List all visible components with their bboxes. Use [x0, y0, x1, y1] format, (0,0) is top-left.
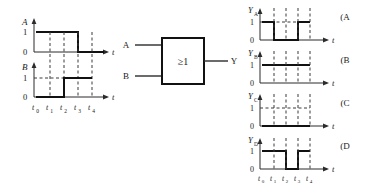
- logic-gate-diagram: A B Y ≥1: [123, 38, 238, 84]
- option-C-level-1-label: 1: [250, 104, 254, 113]
- channel-A-trace: [36, 32, 104, 52]
- option-tick-t1: t 1: [270, 174, 277, 184]
- option-tick-t2: t 2: [282, 174, 289, 184]
- input-tick-t4: t 4: [88, 103, 95, 114]
- channel-A-level-1-label: 1: [23, 27, 27, 37]
- gate-input-b-label: B: [123, 71, 129, 81]
- option-tick-t4: t 4: [306, 174, 313, 184]
- option-A-choice-label: (A: [340, 12, 350, 22]
- channel-B-trace: [36, 78, 92, 97]
- channel-B-name-label: B: [22, 62, 28, 72]
- option-B-x-axis-arrow: [323, 81, 329, 86]
- answer-options-panel: Y A 1 0 t (A Y B 1 0 t: [248, 5, 350, 184]
- input-tick-t0: t 0: [32, 103, 39, 114]
- input-tick-t4-base: t: [88, 103, 91, 112]
- waveform-channel-B: B 1 0 t: [22, 62, 115, 102]
- option-D-level-1-label: 1: [250, 147, 254, 156]
- input-time-tick-labels: t 0 t 1 t 2 t 3 t 4: [32, 103, 95, 114]
- channel-B-level-0-label: 0: [23, 92, 27, 102]
- or-gate-symbol: ≥1: [178, 56, 189, 67]
- option-tick-t0-sub: 0: [262, 179, 265, 184]
- option-B-level-0-label: 0: [250, 79, 254, 88]
- input-tick-t0-base: t: [32, 103, 35, 112]
- channel-B-time-axis-label: t: [112, 92, 115, 102]
- option-tick-t3-base: t: [294, 174, 297, 183]
- input-tick-t1-sub: 1: [50, 108, 53, 114]
- channel-B-y-axis-arrow: [32, 62, 37, 68]
- option-tick-t4-base: t: [306, 174, 309, 183]
- option-time-tick-labels: t 0 t 1 t 2 t 3 t 4: [258, 174, 313, 184]
- option-D-time-axis-label: t: [332, 164, 335, 174]
- option-tick-t0: t 0: [258, 174, 265, 184]
- option-C-y-axis-arrow: [258, 94, 263, 100]
- input-tick-t2-sub: 2: [64, 108, 67, 114]
- logic-waveform-figure: A 1 0 t B 1 0: [0, 0, 368, 187]
- option-A-x-axis-arrow: [323, 38, 329, 43]
- input-tick-t2: t 2: [60, 103, 67, 114]
- figure-canvas: A 1 0 t B 1 0: [0, 0, 368, 187]
- channel-A-time-axis-label: t: [112, 47, 115, 57]
- option-B-level-1-label: 1: [250, 61, 254, 70]
- option-B-time-axis-label: t: [332, 78, 335, 88]
- option-B-choice-label: (B: [341, 55, 350, 65]
- input-tick-t1: t 1: [46, 103, 53, 114]
- option-gridlines: [274, 8, 310, 169]
- option-C-choice-label: (C: [341, 98, 350, 108]
- gate-input-a-label: A: [123, 40, 130, 50]
- input-tick-t3: t 3: [74, 103, 81, 114]
- input-tick-t4-sub: 4: [92, 108, 95, 114]
- option-tick-t2-sub: 2: [286, 179, 289, 184]
- option-A-level-1-label: 1: [250, 18, 254, 27]
- option-tick-t4-sub: 4: [310, 179, 313, 184]
- input-tick-t1-base: t: [46, 103, 49, 112]
- option-tick-t3: t 3: [294, 174, 301, 184]
- option-D[interactable]: Y D 1 0 t (D: [248, 135, 350, 174]
- option-D-x-axis-arrow: [323, 167, 329, 172]
- option-C-x-axis-arrow: [323, 124, 329, 129]
- option-A[interactable]: Y A 1 0 t (A: [248, 5, 350, 45]
- option-A-time-axis-label: t: [332, 35, 335, 45]
- option-A-signal-subscript: A: [254, 11, 258, 17]
- option-tick-t1-base: t: [270, 174, 273, 183]
- channel-A-y-axis-arrow: [32, 18, 37, 24]
- channel-B-x-axis-arrow: [103, 95, 109, 100]
- option-A-y-axis-arrow: [258, 8, 263, 14]
- channel-A-name-label: A: [21, 17, 28, 27]
- option-D-y-axis-arrow: [258, 138, 263, 144]
- option-tick-t2-base: t: [282, 174, 285, 183]
- option-tick-t1-sub: 1: [274, 179, 277, 184]
- waveform-channel-A: A 1 0 t: [21, 17, 115, 57]
- option-C-time-axis-label: t: [332, 121, 335, 131]
- option-D-signal-subscript: D: [254, 141, 258, 147]
- option-tick-t0-base: t: [258, 174, 261, 183]
- gate-output-label: Y: [231, 56, 238, 66]
- option-D-level-0-label: 0: [250, 165, 254, 174]
- option-C-signal-subscript: C: [254, 97, 258, 103]
- option-tick-t3-sub: 3: [298, 179, 301, 184]
- input-tick-t3-sub: 3: [78, 108, 81, 114]
- input-tick-t0-sub: 0: [36, 108, 39, 114]
- option-B[interactable]: Y B 1 0 t (B: [248, 48, 350, 88]
- option-A-level-0-label: 0: [250, 36, 254, 45]
- option-C[interactable]: Y C 1 0 t (C: [248, 91, 350, 131]
- option-D-choice-label: (D: [340, 141, 350, 151]
- option-B-signal-subscript: B: [254, 54, 258, 60]
- channel-A-level-0-label: 0: [23, 47, 27, 57]
- input-waveform-panel: A 1 0 t B 1 0: [21, 17, 115, 114]
- input-tick-t2-base: t: [60, 103, 63, 112]
- input-tick-t3-base: t: [74, 103, 77, 112]
- channel-B-level-1-label: 1: [23, 73, 27, 83]
- option-C-level-0-label: 0: [250, 122, 254, 131]
- option-B-y-axis-arrow: [258, 51, 263, 57]
- input-gridlines: [50, 32, 92, 97]
